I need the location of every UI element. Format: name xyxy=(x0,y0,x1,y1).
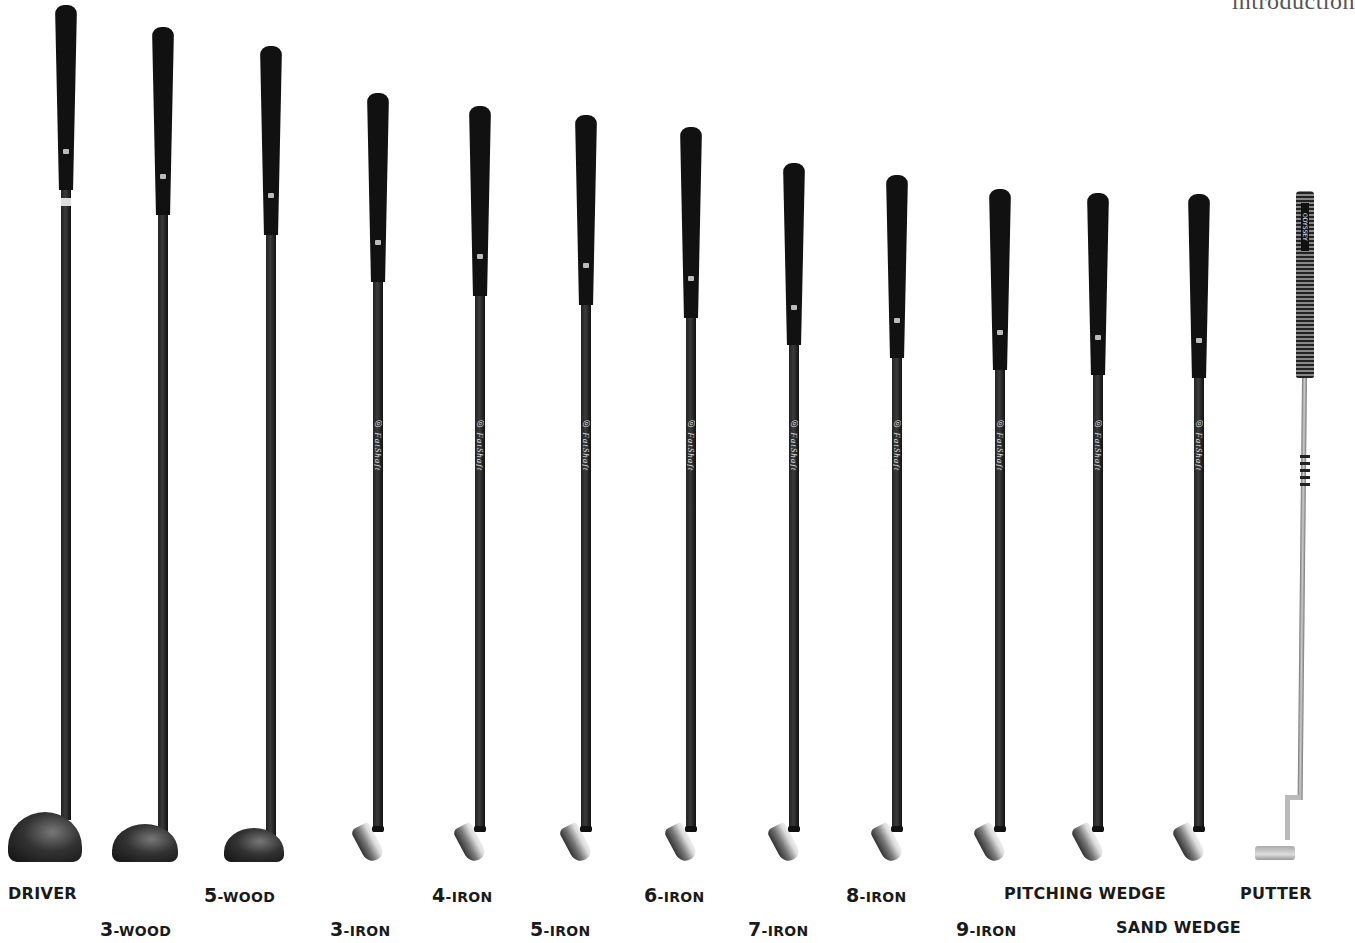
shaft xyxy=(686,318,696,832)
putter-hosel-bend xyxy=(1285,795,1299,800)
grip xyxy=(783,163,805,345)
label-3-wood: 3-WOOD xyxy=(100,918,171,940)
hosel xyxy=(580,826,592,832)
label-9-iron: 9-IRON xyxy=(956,918,1016,940)
hosel xyxy=(788,826,800,832)
shaft-brand: ◎ FatShaft xyxy=(582,418,590,513)
putter-hosel xyxy=(1285,795,1290,840)
label-6-iron: 6-IRON xyxy=(644,884,704,906)
section-header: introduction xyxy=(1232,0,1355,15)
grip xyxy=(989,189,1011,370)
label-text: -IRON xyxy=(658,889,705,905)
shaft xyxy=(61,190,71,820)
label-text: -IRON xyxy=(860,889,907,905)
label-pitching-wedge: PITCHING WEDGE xyxy=(1004,884,1166,903)
label-number: 7 xyxy=(748,918,762,940)
hosel xyxy=(994,826,1006,832)
hosel xyxy=(372,826,384,832)
shaft-band xyxy=(1300,476,1310,479)
grip-logo-icon xyxy=(160,174,166,179)
hosel xyxy=(891,826,903,832)
label-number: 4 xyxy=(432,884,446,906)
label-number: 9 xyxy=(956,918,970,940)
grip xyxy=(367,93,389,282)
label-text: -WOOD xyxy=(114,923,172,939)
grip xyxy=(1188,194,1210,378)
shaft-band xyxy=(1300,455,1310,458)
hosel xyxy=(1193,826,1205,832)
label-text: -WOOD xyxy=(218,889,276,905)
grip-logo-icon xyxy=(1196,338,1202,343)
label-number: 6 xyxy=(644,884,658,906)
shaft-band xyxy=(1300,469,1310,472)
shaft xyxy=(581,305,591,832)
grip xyxy=(575,115,597,305)
label-5-iron: 5-IRON xyxy=(530,918,590,940)
shaft-band xyxy=(1300,462,1310,465)
wood-head xyxy=(8,812,82,862)
shaft-band xyxy=(61,198,71,206)
shaft xyxy=(266,235,276,836)
grip-logo-icon xyxy=(791,305,797,310)
label-text: -IRON xyxy=(544,923,591,939)
label-number: 5 xyxy=(530,918,544,940)
grip-logo-icon xyxy=(1095,335,1101,340)
label-putter: PUTTER xyxy=(1240,884,1312,903)
shaft xyxy=(373,282,383,832)
label-driver: DRIVER xyxy=(8,884,77,903)
shaft-brand: ◎ FatShaft xyxy=(1195,418,1203,513)
grip-logo-icon xyxy=(375,240,381,245)
label-3-iron: 3-IRON xyxy=(330,918,390,940)
grip xyxy=(152,27,174,215)
label-sand-wedge: SAND WEDGE xyxy=(1116,918,1241,937)
grip-logo-icon xyxy=(477,254,483,259)
shaft-band xyxy=(1300,483,1310,486)
shaft-brand: ◎ FatShaft xyxy=(996,418,1004,513)
grip-logo-icon xyxy=(63,149,69,154)
shaft-brand: ◎ FatShaft xyxy=(893,418,901,513)
label-number: 8 xyxy=(846,884,860,906)
label-5-wood: 5-WOOD xyxy=(204,884,275,906)
hosel xyxy=(685,826,697,832)
grip xyxy=(886,175,908,358)
grip xyxy=(1087,193,1109,375)
grip xyxy=(469,106,491,296)
grip xyxy=(260,46,282,235)
grip xyxy=(680,127,702,318)
label-number: 3 xyxy=(100,918,114,940)
shaft-brand: ◎ FatShaft xyxy=(476,418,484,513)
grip-logo-icon xyxy=(688,276,694,281)
shaft-brand: ◎ FatShaft xyxy=(687,418,695,513)
grip xyxy=(55,5,77,190)
label-text: -IRON xyxy=(344,923,391,939)
shaft-brand: ◎ FatShaft xyxy=(1094,418,1102,513)
putter-head xyxy=(1255,846,1295,860)
label-4-iron: 4-IRON xyxy=(432,884,492,906)
shaft xyxy=(475,296,485,832)
label-text: -IRON xyxy=(762,923,809,939)
shaft-brand: ◎ FatShaft xyxy=(374,418,382,513)
hosel xyxy=(474,826,486,832)
putter-grip-brand: ODYSSEY xyxy=(1301,203,1309,251)
grip-logo-icon xyxy=(583,263,589,268)
grip-logo-icon xyxy=(894,318,900,323)
shaft-brand: ◎ FatShaft xyxy=(790,418,798,513)
putter-shaft xyxy=(1298,378,1307,800)
club-putter: ODYSSEY xyxy=(0,0,1,1)
label-7-iron: 7-IRON xyxy=(748,918,808,940)
shaft xyxy=(158,215,168,832)
label-number: 3 xyxy=(330,918,344,940)
hosel xyxy=(1092,826,1104,832)
label-number: 5 xyxy=(204,884,218,906)
grip-logo-icon xyxy=(997,330,1003,335)
label-8-iron: 8-IRON xyxy=(846,884,906,906)
grip-logo-icon xyxy=(268,193,274,198)
label-text: -IRON xyxy=(970,923,1017,939)
label-text: -IRON xyxy=(446,889,493,905)
